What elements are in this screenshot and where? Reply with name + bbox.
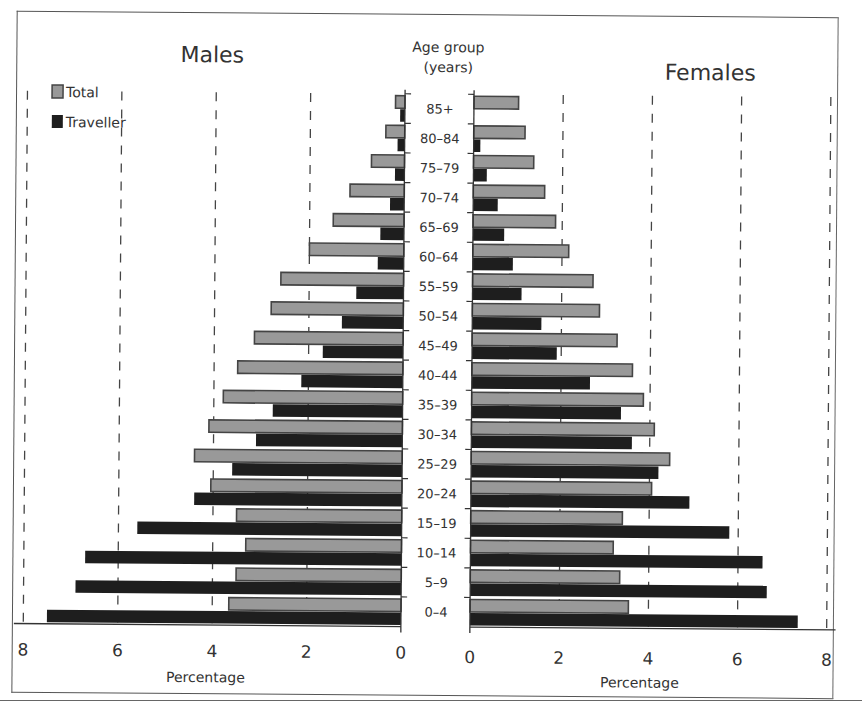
bar-female-total [472, 303, 599, 316]
bar-male-total [236, 568, 401, 582]
gridline-females [648, 96, 652, 629]
legend-label-total: Total [65, 84, 99, 100]
bar-male-traveller [380, 227, 404, 240]
x-tick-label-females: 2 [553, 648, 564, 668]
bar-male-traveller [273, 404, 403, 418]
bar-female-traveller [471, 524, 730, 539]
x-tick-label-males: 8 [18, 640, 29, 660]
bar-male-traveller [85, 551, 401, 566]
bar-female-traveller [474, 139, 481, 152]
age-group-label: 75–79 [420, 161, 460, 176]
bar-female-traveller [473, 228, 504, 241]
population-pyramid-chart: 0022446688 85+80–8475–7970–7465–6960–645… [3, 3, 862, 710]
bar-female-traveller [473, 199, 498, 212]
bar-female-total [473, 185, 544, 198]
bar-female-total [471, 511, 623, 525]
age-group-label: 20–24 [417, 486, 457, 501]
bar-male-total [396, 96, 406, 109]
bar-female-traveller [471, 435, 632, 449]
bar-male-traveller [47, 610, 401, 625]
x-tick-label-males: 6 [112, 640, 123, 660]
age-group-label: 60–64 [419, 249, 459, 264]
age-group-label: 45–49 [418, 338, 458, 353]
bar-male-traveller [232, 463, 402, 477]
gridline-females [737, 96, 741, 629]
bar-female-total [472, 333, 617, 347]
x-tick-label-females: 6 [732, 649, 743, 669]
bar-male-total [246, 539, 402, 553]
x-tick-label-males: 2 [301, 642, 312, 662]
bar-male-traveller [301, 375, 403, 388]
bar-male-total [229, 598, 401, 612]
bar-female-total [471, 451, 670, 465]
bar-male-total [333, 214, 404, 227]
gridline-males [212, 92, 216, 625]
x-tick-label-females: 4 [643, 648, 654, 668]
bar-male-total [238, 361, 403, 375]
age-group-label: 50–54 [418, 309, 458, 324]
x-tick-label-males: 4 [206, 641, 217, 661]
bar-female-total [472, 392, 644, 406]
bar-male-total [309, 243, 403, 256]
bar-female-traveller [470, 583, 767, 598]
panel-title-males: Males [180, 42, 244, 67]
bar-male-total [371, 155, 404, 168]
age-group-label: 5–9 [425, 575, 448, 590]
panel-title-females: Females [665, 60, 756, 86]
age-group-title: Age group [412, 39, 484, 56]
bar-male-total [211, 479, 402, 493]
bar-male-traveller [342, 316, 403, 329]
bar-male-traveller [390, 198, 404, 211]
gridline-males [23, 91, 27, 624]
age-group-subtitle: (years) [423, 59, 473, 75]
bar-female-total [473, 215, 556, 228]
legend-swatch-traveller [52, 115, 63, 128]
legend-swatch-total [52, 85, 63, 98]
bar-male-traveller [194, 492, 402, 506]
bar-female-traveller [473, 169, 486, 182]
bar-female-total [473, 244, 569, 257]
x-axis-label-males: Percentage [166, 669, 245, 686]
bar-male-traveller [378, 257, 404, 270]
bar-female-traveller [472, 376, 590, 389]
bar-female-total [474, 126, 525, 139]
bar-male-total [386, 125, 405, 138]
age-group-label: 10–14 [417, 545, 457, 560]
age-group-label: 40–44 [418, 368, 458, 383]
bar-female-traveller [470, 554, 762, 569]
bar-male-traveller [356, 286, 403, 299]
bar-female-total [472, 363, 633, 377]
bar-female-traveller [472, 406, 622, 420]
x-tick-label-males: 0 [395, 642, 406, 662]
bar-female-total [473, 155, 533, 168]
bar-female-traveller [472, 347, 557, 360]
age-group-label: 25–29 [417, 457, 457, 472]
bar-female-total [471, 422, 654, 436]
age-group-label: 80–84 [420, 131, 460, 146]
bar-male-total [194, 449, 402, 463]
legend-label-traveller: Traveller [65, 114, 126, 130]
bar-female-traveller [470, 613, 798, 628]
bar-male-traveller [256, 434, 402, 448]
bar-female-traveller [472, 317, 541, 330]
bar-female-total [470, 599, 628, 613]
bar-male-traveller [75, 580, 401, 595]
x-tick-label-females: 8 [821, 650, 832, 670]
bar-female-total [474, 96, 519, 109]
bar-female-traveller [473, 258, 513, 271]
gridline-females [827, 97, 831, 630]
bar-male-total [254, 331, 403, 345]
bar-female-total [470, 540, 613, 554]
x-axis-label-females: Percentage [600, 674, 679, 691]
bar-female-traveller [472, 287, 521, 300]
age-group-labels: 85+80–8475–7970–7465–6960–6455–5950–5445… [416, 101, 460, 619]
bar-male-total [223, 390, 402, 404]
x-tick-label-females: 0 [464, 647, 475, 667]
age-group-label: 0–4 [424, 605, 447, 620]
bar-male-total [236, 509, 401, 523]
bar-female-traveller [471, 495, 690, 509]
bar-male-total [271, 302, 403, 316]
tick-labels: 0022446688 [18, 640, 832, 670]
age-group-label: 70–74 [419, 190, 459, 205]
age-group-label: 15–19 [417, 516, 457, 531]
